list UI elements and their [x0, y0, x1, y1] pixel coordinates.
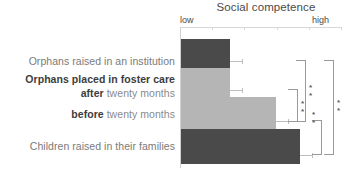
axis-tick: [341, 27, 342, 30]
row-label-families: Children raised in their families: [30, 140, 175, 152]
significance-mark-institution-vs-before: **: [307, 83, 313, 99]
axis-tick: [212, 27, 213, 30]
error-bar-cap-foster-after: [242, 88, 243, 93]
error-bar-foster-before: [276, 121, 288, 122]
row-label-after-rest: twenty months: [107, 87, 175, 99]
axis-line: [180, 27, 342, 28]
error-bar-foster-after: [230, 90, 242, 91]
row-label-institution: Orphans raised in an institution: [29, 55, 175, 67]
error-bar-institution: [230, 61, 242, 62]
chart-title: Social competence: [196, 1, 336, 13]
row-label-after-emphasis: after: [81, 87, 104, 99]
row-label-foster-care-title: Orphans placed in foster care: [25, 73, 175, 85]
bar-institution: [181, 39, 230, 68]
bar-foster-before: [181, 97, 276, 129]
axis-tick: [244, 27, 245, 30]
axis-high-label: high: [312, 15, 329, 25]
row-label-before-rest: twenty months: [107, 108, 175, 120]
error-bar-cap-institution: [242, 59, 243, 64]
significance-mark-institution-vs-families: **: [335, 98, 341, 114]
chart-figure: Social competence low high Orphans raise…: [0, 0, 347, 170]
axis-tick: [309, 27, 310, 30]
row-label-before-emphasis: before: [71, 108, 103, 120]
significance-bracket-institution-vs-families: [324, 60, 334, 155]
error-bar-families: [300, 155, 312, 156]
significance-mark-before-vs-families: **: [310, 110, 316, 126]
axis-low-label: low: [180, 15, 194, 25]
bar-families: [181, 129, 300, 164]
bar-foster-after: [181, 68, 230, 97]
axis-tick: [277, 27, 278, 30]
significance-bracket-institution-vs-before: [296, 60, 306, 122]
